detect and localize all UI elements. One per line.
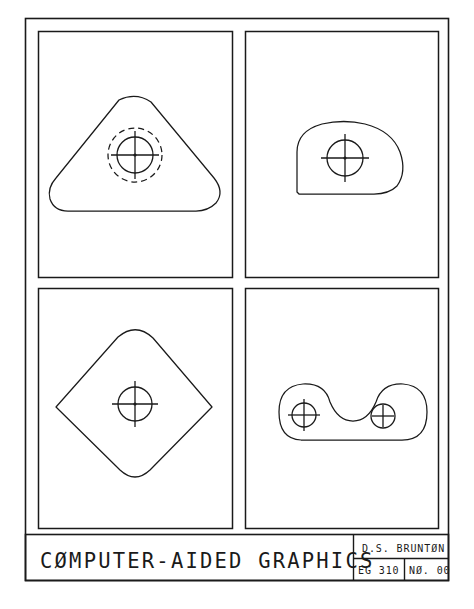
panel-3-geometry (56, 330, 212, 477)
drawing-number-label: NØ. 00 (409, 565, 451, 576)
panel-2-frame (246, 32, 439, 278)
dogbone-link-outline (279, 384, 427, 440)
drawing-canvas: CØMPUTER-AIDED GRAPHICS D.S. BRUNTØN EG … (0, 0, 474, 609)
panel-1-geometry (49, 96, 220, 211)
center-dot (133, 153, 136, 156)
sheet-title: CØMPUTER-AIDED GRAPHICS (40, 549, 374, 573)
center-dot (343, 156, 346, 159)
sheet-border (26, 19, 449, 581)
drawing-sheet: CØMPUTER-AIDED GRAPHICS D.S. BRUNTØN EG … (0, 0, 474, 609)
course-label: EG 310 (358, 565, 400, 576)
panel-4-geometry (279, 384, 427, 440)
author-label: D.S. BRUNTØN (362, 543, 445, 554)
plus-mark-right (372, 405, 394, 427)
center-mark-left (288, 399, 320, 431)
panel-2-geometry (297, 122, 403, 195)
title-block: CØMPUTER-AIDED GRAPHICS D.S. BRUNTØN EG … (26, 535, 451, 581)
center-dot (133, 402, 136, 405)
panel-4-frame (246, 289, 439, 529)
